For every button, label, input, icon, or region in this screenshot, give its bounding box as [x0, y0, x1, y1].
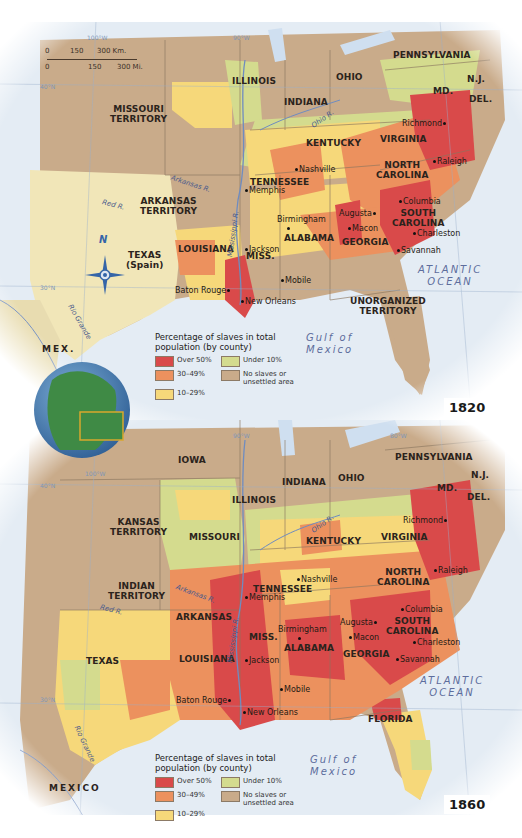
legend-1820: Percentage of slaves in totalpopulation … [155, 332, 311, 400]
region-unorganized-territory: UNORGANIZEDTERRITORY [350, 296, 426, 316]
region-del: DEL. [467, 492, 490, 502]
map-1860: 100°W 90°W 80°W 40°N 30°N IOWA ILLINOIS … [0, 420, 522, 838]
city-new-orleans: New Orleans [240, 297, 296, 306]
compass-north-label: N [99, 235, 107, 245]
year-label-1820: 1820 [444, 398, 490, 417]
city-charleston: Charleston [412, 229, 460, 238]
city-new-orleans: New Orleans [242, 708, 298, 717]
city-columbia: Columbia [400, 605, 443, 614]
city-baton-rouge: Baton Rouge [176, 696, 232, 705]
region-illinois: ILLINOIS [232, 495, 276, 505]
grid-label-30n: 30°N [40, 284, 55, 291]
region-virginia: VIRGINIA [380, 134, 427, 144]
region-south-carolina: SOUTHCAROLINA [392, 208, 445, 228]
region-indiana: INDIANA [282, 477, 326, 487]
region-md: MD. [437, 483, 457, 493]
year-label-1860: 1860 [444, 795, 490, 814]
region-illinois: ILLINOIS [232, 76, 276, 86]
grid-label-40n: 40°N [40, 482, 55, 489]
city-jackson: Jackson [244, 245, 279, 254]
region-north-carolina: NORTHCAROLINA [376, 160, 429, 180]
legend-1860: Percentage of slaves in totalpopulation … [155, 753, 311, 821]
city-charleston: Charleston [412, 638, 460, 647]
city-birmingham: Birmingham [278, 625, 327, 643]
city-augusta: Augusta [339, 209, 377, 218]
region-north-carolina: NORTHCAROLINA [377, 567, 430, 587]
legend-item-10-29: 10–29% [155, 810, 221, 821]
city-mobile: Mobile [279, 685, 310, 694]
region-nj: N.J. [467, 74, 485, 84]
atlantic-ocean-label: ATLANTICOCEAN [418, 264, 482, 288]
city-savannah: Savannah [395, 655, 440, 664]
region-kentucky: KENTUCKY [306, 536, 361, 546]
region-kansas-territory: KANSASTERRITORY [110, 517, 167, 537]
gulf-of-mexico-label: Gulf ofMexico [310, 754, 357, 778]
map-1820: 0 150 300 Km. 0 150 300 Mi. 100°W 90°W 4… [0, 0, 522, 420]
legend-item-10-29: 10–29% [155, 389, 221, 400]
region-pennsylvania: PENNSYLVANIA [393, 50, 471, 60]
city-birmingham: Birmingham [277, 215, 326, 233]
grid-label-80w: 80°W [390, 432, 407, 439]
region-ohio: OHIO [338, 473, 365, 483]
legend-title: Percentage of slaves in totalpopulation … [155, 753, 311, 773]
region-texas: TEXAS(Spain) [126, 250, 163, 270]
city-savannah: Savannah [396, 246, 441, 255]
legend-item-30-49: 30–49% [155, 370, 221, 386]
region-virginia: VIRGINIA [381, 532, 428, 542]
region-md: MD. [433, 86, 453, 96]
city-memphis: Memphis [244, 593, 285, 602]
legend-title: Percentage of slaves in totalpopulation … [155, 332, 311, 352]
region-florida: FLORIDA [368, 714, 413, 724]
gulf-of-mexico-label: Gulf ofMexico [306, 332, 353, 356]
legend-item-under-10: Under 10% [221, 356, 311, 367]
region-indian-territory: INDIANTERRITORY [108, 581, 165, 601]
grid-label-40n: 40°N [40, 83, 55, 90]
legend-item-over-50: Over 50% [155, 777, 221, 788]
region-miss: MISS. [249, 632, 278, 642]
city-memphis: Memphis [244, 186, 285, 195]
city-mobile: Mobile [280, 276, 311, 285]
legend-item-no-slaves: No slaves orunsettled area [221, 370, 311, 386]
region-arkansas-territory: ARKANSASTERRITORY [140, 196, 197, 216]
region-alabama: ALABAMA [284, 233, 334, 243]
grid-label-100w: 100°W [85, 470, 105, 477]
region-missouri-territory: MISSOURITERRITORY [110, 104, 167, 124]
city-macon: Macon [348, 633, 379, 642]
city-raleigh: Raleigh [432, 157, 467, 166]
region-georgia: GEORGIA [342, 237, 389, 247]
legend-item-under-10: Under 10% [221, 777, 311, 788]
region-del: DEL. [469, 94, 492, 104]
region-alabama: ALABAMA [284, 643, 334, 653]
region-indiana: INDIANA [284, 97, 328, 107]
legend-item-no-slaves: No slaves orunsettled area [221, 791, 311, 807]
grid-label-90w: 90°W [233, 34, 250, 41]
city-baton-rouge: Baton Rouge [175, 286, 231, 295]
grid-label-100w: 100°W [87, 34, 107, 41]
city-macon: Macon [347, 224, 378, 233]
legend-item-30-49: 30–49% [155, 791, 221, 807]
region-pennsylvania: PENNSYLVANIA [395, 452, 473, 462]
scale-bar: 0 150 300 Km. 0 150 300 Mi. [45, 47, 145, 77]
legend-item-over-50: Over 50% [155, 356, 221, 367]
city-columbia: Columbia [398, 197, 441, 206]
city-augusta: Augusta [340, 618, 378, 627]
city-nashville: Nashville [296, 575, 337, 584]
grid-label-90w: 90°W [233, 432, 250, 439]
region-kentucky: KENTUCKY [306, 138, 361, 148]
atlantic-ocean-label: ATLANTICOCEAN [420, 675, 484, 699]
region-texas: TEXAS [86, 656, 119, 666]
region-arkansas: ARKANSAS [176, 612, 232, 622]
city-raleigh: Raleigh [433, 566, 468, 575]
region-missouri: MISSOURI [189, 532, 240, 542]
city-nashville: Nashville [294, 165, 335, 174]
city-richmond: Richmond [403, 516, 448, 525]
grid-label-30n: 30°N [40, 696, 55, 703]
region-nj: N.J. [471, 470, 489, 480]
city-richmond: Richmond [402, 119, 447, 128]
region-south-carolina: SOUTHCAROLINA [386, 616, 439, 636]
region-mex: MEX. [42, 344, 75, 354]
region-ohio: OHIO [336, 72, 363, 82]
region-iowa: IOWA [178, 455, 206, 465]
region-georgia: GEORGIA [343, 649, 390, 659]
city-jackson: Jackson [244, 656, 279, 665]
